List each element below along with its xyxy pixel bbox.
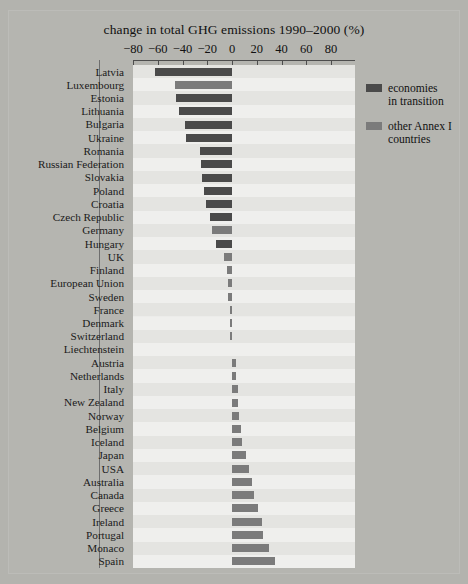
category-label: Bulgaria (0, 119, 128, 130)
bar[interactable] (232, 491, 254, 499)
bar[interactable] (232, 504, 258, 512)
category-label: Belgium (0, 424, 128, 435)
bar[interactable] (232, 385, 238, 393)
category-label: Japan (0, 450, 128, 461)
category-label: Ireland (0, 517, 128, 528)
bar[interactable] (232, 412, 239, 420)
chart-row-band (133, 303, 355, 316)
bar[interactable] (175, 81, 232, 89)
chart-row-band (133, 369, 355, 382)
category-label: Estonia (0, 93, 128, 104)
bar[interactable] (179, 107, 232, 115)
bar[interactable] (232, 465, 249, 473)
category-label: New Zealand (0, 397, 128, 408)
category-label: Portugal (0, 530, 128, 541)
bar[interactable] (204, 187, 232, 195)
category-label: Liechtenstein (0, 344, 128, 355)
bar[interactable] (232, 438, 242, 446)
legend-label-line2: countries (388, 133, 464, 146)
bar[interactable] (232, 451, 246, 459)
bar[interactable] (232, 478, 252, 486)
category-label: Hungary (0, 239, 128, 250)
category-label: Iceland (0, 437, 128, 448)
bar[interactable] (232, 518, 262, 526)
legend-swatch (366, 84, 382, 92)
x-axis-tick-labels: −80−60−40−20020406080 (0, 42, 468, 58)
bar[interactable] (230, 332, 232, 340)
chart-legend: economiesin transitionother Annex Icount… (366, 82, 464, 158)
bar[interactable] (232, 359, 236, 367)
chart-row-band (133, 396, 355, 409)
chart-row-band (133, 264, 355, 277)
chart-row-band (133, 131, 355, 144)
category-label: Spain (0, 556, 128, 567)
category-label: Czech Republic (0, 212, 128, 223)
category-label: Russian Federation (0, 159, 128, 170)
chart-row-band (133, 197, 355, 210)
legend-label-line1: other Annex I (388, 120, 464, 133)
x-axis-tick-label: 60 (300, 42, 313, 57)
category-label: Finland (0, 265, 128, 276)
bar[interactable] (232, 544, 269, 552)
bar[interactable] (230, 306, 232, 314)
bar[interactable] (227, 266, 232, 274)
bar[interactable] (232, 557, 275, 565)
category-label: Lithuania (0, 106, 128, 117)
chart-row-band (133, 356, 355, 369)
bar[interactable] (232, 399, 238, 407)
bar[interactable] (201, 160, 232, 168)
bar[interactable] (230, 319, 232, 327)
bar[interactable] (176, 94, 232, 102)
category-label: Austria (0, 358, 128, 369)
legend-label-line2: in transition (388, 95, 464, 108)
category-label: Romania (0, 146, 128, 157)
category-labels: LatviaLuxembourgEstoniaLithuaniaBulgaria… (0, 65, 128, 568)
bar[interactable] (186, 134, 232, 142)
chart-row-band (133, 237, 355, 250)
bar[interactable] (155, 68, 232, 76)
bar[interactable] (202, 174, 232, 182)
category-label: Denmark (0, 318, 128, 329)
chart-root: change in total GHG emissions 1990–2000 … (0, 0, 468, 584)
bar[interactable] (200, 147, 232, 155)
chart-row-band (133, 78, 355, 91)
bar[interactable] (224, 253, 232, 261)
bar[interactable] (216, 240, 232, 248)
category-label: Norway (0, 411, 128, 422)
chart-row-band (133, 158, 355, 171)
x-axis-tick-label: 20 (251, 42, 264, 57)
chart-row-band (133, 409, 355, 422)
bar[interactable] (206, 200, 232, 208)
bar[interactable] (212, 226, 232, 234)
legend-item[interactable]: economiesin transition (366, 82, 464, 108)
category-label: France (0, 305, 128, 316)
chart-row-band (133, 224, 355, 237)
bar[interactable] (228, 293, 232, 301)
x-axis-tick-label: −80 (123, 42, 143, 57)
bar[interactable] (228, 279, 232, 287)
x-axis-tick-label: 0 (229, 42, 235, 57)
x-axis-tick-label: 40 (275, 42, 288, 57)
bar[interactable] (185, 121, 232, 129)
chart-row-band (133, 277, 355, 290)
x-axis-tick-label: −60 (148, 42, 168, 57)
chart-row-band (133, 343, 355, 356)
chart-row-band (133, 250, 355, 263)
category-label: UK (0, 252, 128, 263)
category-label: Italy (0, 384, 128, 395)
category-label: Netherlands (0, 371, 128, 382)
chart-row-band (133, 290, 355, 303)
category-label: Germany (0, 225, 128, 236)
bar[interactable] (210, 213, 232, 221)
bar[interactable] (232, 531, 263, 539)
x-axis-tick-label: −40 (173, 42, 193, 57)
chart-row-band (133, 317, 355, 330)
category-label: Poland (0, 186, 128, 197)
bar[interactable] (232, 372, 236, 380)
plot-panel (133, 65, 355, 568)
chart-title: change in total GHG emissions 1990–2000 … (0, 22, 468, 38)
legend-item[interactable]: other Annex Icountries (366, 120, 464, 146)
bar[interactable] (232, 425, 241, 433)
chart-row-band (133, 171, 355, 184)
chart-row-band (133, 184, 355, 197)
